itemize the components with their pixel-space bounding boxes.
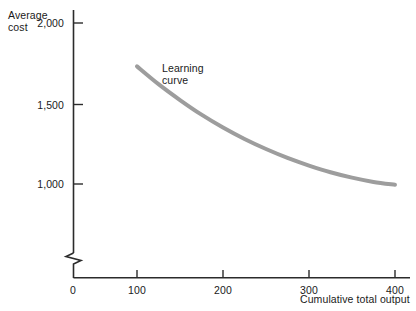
learning-curve-chart: Averagecost 2,000 1,500 1,000 0 100 200 … <box>0 0 416 311</box>
x-tick-marks <box>137 270 395 278</box>
learning-curve-annotation-line1: Learning <box>162 62 204 74</box>
x-tick-label-100: 100 <box>122 284 152 296</box>
y-tick-label-1500: 1,500 <box>16 99 64 111</box>
y-tick-marks <box>74 23 84 184</box>
y-axis-break-zigzag <box>66 253 81 278</box>
learning-curve-annotation-line2: curve <box>162 74 188 86</box>
y-tick-label-1000: 1,000 <box>16 178 64 190</box>
y-tick-label-2000: 2,000 <box>16 17 64 29</box>
x-axis-title: Cumulative total output <box>300 293 414 305</box>
chart-canvas <box>0 0 416 311</box>
x-tick-label-200: 200 <box>208 284 238 296</box>
learning-curve-annotation: Learningcurve <box>162 62 232 87</box>
x-tick-label-0: 0 <box>58 284 88 296</box>
